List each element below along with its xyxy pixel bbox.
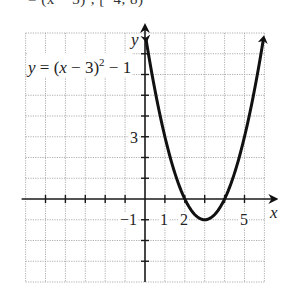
x-tick-5: 5 [239, 212, 249, 228]
x-axis-label: x [270, 203, 278, 223]
cropped-caption: = (x − 3)², [−4, 8) [28, 0, 144, 8]
y-tick-3: 3 [129, 130, 139, 146]
equation-label: y = (x − 3)2 − 1 [27, 53, 132, 77]
plot-area [0, 0, 292, 292]
y-tick-neg1: −1 [119, 212, 138, 228]
x-tick-2: 2 [179, 212, 189, 228]
graph-figure: = (x − 3)², [−4, 8) y = (x − 3)2 − 1 y x… [0, 0, 292, 292]
x-tick-1: 1 [159, 212, 169, 228]
y-axis-label: y [131, 30, 139, 50]
